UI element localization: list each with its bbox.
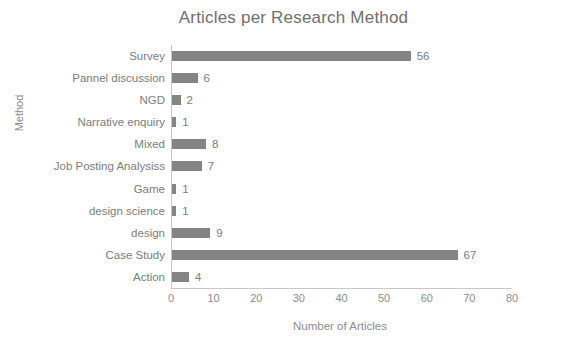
x-tick-label: 30 <box>293 292 305 304</box>
bar-row: design science1 <box>171 200 512 222</box>
x-tick-label: 80 <box>506 292 518 304</box>
bar-row: Case Study67 <box>171 244 512 266</box>
bar-value-label: 67 <box>464 249 477 261</box>
category-label: Game <box>134 183 165 195</box>
x-tick-label: 0 <box>168 292 174 304</box>
bar-value-label: 8 <box>212 138 218 150</box>
x-tick-label: 40 <box>335 292 347 304</box>
category-label: Case Study <box>106 249 165 261</box>
bar <box>172 272 189 282</box>
bar-row: Narrative enquiry1 <box>171 111 512 133</box>
bar-value-label: 6 <box>204 72 210 84</box>
bar-value-label: 1 <box>182 116 188 128</box>
bar-value-label: 56 <box>417 50 430 62</box>
bar-row: Survey56 <box>171 45 512 67</box>
x-tick-label: 10 <box>208 292 220 304</box>
bar-row: Job Posting Analysiss7 <box>171 155 512 177</box>
category-label: Pannel discussion <box>72 72 165 84</box>
bar <box>172 139 206 149</box>
bar-value-label: 2 <box>187 94 193 106</box>
x-axis-line <box>171 288 512 289</box>
bar-value-label: 4 <box>195 271 201 283</box>
bar-value-label: 1 <box>182 205 188 217</box>
category-label: NGD <box>139 94 165 106</box>
x-tick-label: 50 <box>378 292 390 304</box>
bar-row: design9 <box>171 222 512 244</box>
bar <box>172 117 176 127</box>
bar <box>172 161 202 171</box>
category-label: Job Posting Analysiss <box>54 160 165 172</box>
bar <box>172 206 176 216</box>
bar <box>172 250 458 260</box>
chart-title: Articles per Research Method <box>0 8 587 28</box>
category-label: Survey <box>129 50 165 62</box>
category-label: design science <box>89 205 165 217</box>
bar <box>172 51 411 61</box>
bar-row: NGD2 <box>171 89 512 111</box>
category-label: Narrative enquiry <box>77 116 165 128</box>
bar-row: Pannel discussion6 <box>171 67 512 89</box>
x-tick-label: 20 <box>250 292 262 304</box>
bar <box>172 228 210 238</box>
chart-container: Articles per Research Method Method Surv… <box>0 0 587 349</box>
bar-row: Game1 <box>171 178 512 200</box>
bar-value-label: 1 <box>182 183 188 195</box>
y-axis-title: Method <box>13 58 25 168</box>
category-label: design <box>131 227 165 239</box>
x-tick-label: 70 <box>463 292 475 304</box>
bar <box>172 95 181 105</box>
bar-value-label: 9 <box>216 227 222 239</box>
category-label: Mixed <box>134 138 165 150</box>
bar <box>172 73 198 83</box>
x-tick-label: 60 <box>421 292 433 304</box>
bar-row: Action4 <box>171 266 512 288</box>
bar <box>172 184 176 194</box>
category-label: Action <box>133 271 165 283</box>
bar-row: Mixed8 <box>171 133 512 155</box>
plot-area: Survey56Pannel discussion6NGD2Narrative … <box>171 45 512 288</box>
x-axis-title: Number of Articles <box>170 320 510 332</box>
bar-value-label: 7 <box>208 160 214 172</box>
